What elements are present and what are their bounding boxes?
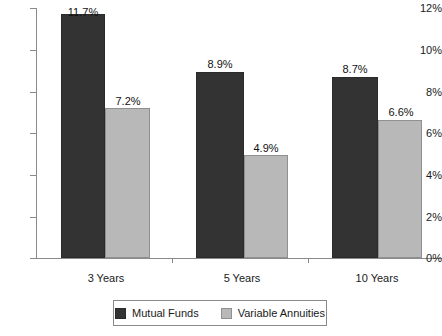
- bar-value-label: 7.2%: [98, 95, 158, 107]
- x-axis-category-label: 3 Years: [66, 272, 146, 284]
- legend-swatch-icon: [115, 308, 126, 319]
- bar-mutual-funds-10-years[interactable]: [332, 77, 378, 258]
- y-axis-tick: [30, 258, 37, 259]
- bar-variable-annuities-5-years[interactable]: [244, 155, 288, 258]
- y-axis-tick: [30, 217, 37, 218]
- x-axis-category-label: 10 Years: [335, 272, 419, 284]
- bar-variable-annuities-3-years[interactable]: [105, 108, 150, 258]
- y-axis-tick-label: 8%: [414, 87, 442, 98]
- y-axis-tick-label: 10%: [414, 45, 442, 56]
- y-axis-tick: [30, 92, 37, 93]
- bar-mutual-funds-3-years[interactable]: [61, 14, 105, 258]
- y-axis-tick: [30, 175, 37, 176]
- y-axis-tick: [30, 8, 37, 9]
- bar-chart: 12% 10% 8% 6% 4% 2% 0% 11.7% 7.2% 3 Year…: [0, 0, 442, 336]
- bar-value-label: 6.6%: [371, 106, 431, 118]
- x-axis-category-label: 5 Years: [202, 272, 282, 284]
- legend-label: Mutual Funds: [132, 307, 199, 319]
- y-axis-tick-label: 12%: [414, 3, 442, 14]
- bar-value-label: 11.7%: [53, 6, 113, 18]
- bar-mutual-funds-5-years[interactable]: [196, 72, 244, 258]
- chart-legend: Mutual Funds Variable Annuities: [113, 300, 327, 326]
- x-axis-tick: [172, 258, 173, 263]
- plot-area: 12% 10% 8% 6% 4% 2% 0% 11.7% 7.2% 3 Year…: [0, 0, 442, 336]
- legend-item-variable-annuities[interactable]: Variable Annuities: [221, 307, 325, 319]
- x-axis-tick: [308, 258, 309, 263]
- bar-variable-annuities-10-years[interactable]: [378, 120, 422, 258]
- bar-value-label: 8.9%: [190, 58, 250, 70]
- legend-swatch-icon: [221, 308, 232, 319]
- bar-value-label: 4.9%: [236, 142, 296, 154]
- legend-item-mutual-funds[interactable]: Mutual Funds: [115, 307, 199, 319]
- bar-value-label: 8.7%: [325, 63, 385, 75]
- y-axis-tick: [30, 133, 37, 134]
- x-axis-line: [36, 258, 442, 259]
- y-axis-tick: [30, 50, 37, 51]
- legend-label: Variable Annuities: [238, 307, 325, 319]
